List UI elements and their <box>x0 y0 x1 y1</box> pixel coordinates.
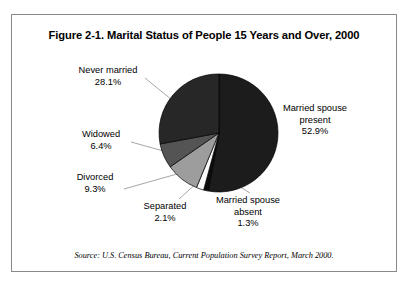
pie-label-married-spouse-absent-text-1: Married spouse <box>196 195 300 207</box>
pie-label-married-spouse-present-value: 52.9% <box>260 126 370 138</box>
pie-label-widowed-value: 6.4% <box>58 141 144 153</box>
pie-label-never-married-value: 28.1% <box>60 77 156 89</box>
pie-label-married-spouse-present-text-2: present <box>260 115 370 127</box>
pie-label-never-married-text: Never married <box>60 65 156 77</box>
pie-chart-area: Never married 28.1% Widowed 6.4% Divorce… <box>12 15 398 273</box>
pie-slice-never-married[interactable] <box>159 74 219 144</box>
source-note: Source: U.S. Census Bureau, Current Popu… <box>12 251 396 260</box>
pie-label-never-married: Never married 28.1% <box>60 65 156 88</box>
pie-label-married-spouse-absent: Married spouse absent 1.3% <box>196 195 300 230</box>
pie-label-married-spouse-present-text-1: Married spouse <box>260 103 370 115</box>
pie-label-widowed-text: Widowed <box>58 129 144 141</box>
pie-label-divorced: Divorced 9.3% <box>52 172 138 195</box>
pie-label-widowed: Widowed 6.4% <box>58 129 144 152</box>
pie-label-divorced-value: 9.3% <box>52 184 138 196</box>
pie-label-divorced-text: Divorced <box>52 172 138 184</box>
pie-label-married-spouse-absent-text-2: absent <box>196 207 300 219</box>
figure-frame: Figure 2-1. Marital Status of People 15 … <box>11 14 397 272</box>
pie-label-married-spouse-absent-value: 1.3% <box>196 218 300 230</box>
pie-label-married-spouse-present: Married spouse present 52.9% <box>260 103 370 138</box>
